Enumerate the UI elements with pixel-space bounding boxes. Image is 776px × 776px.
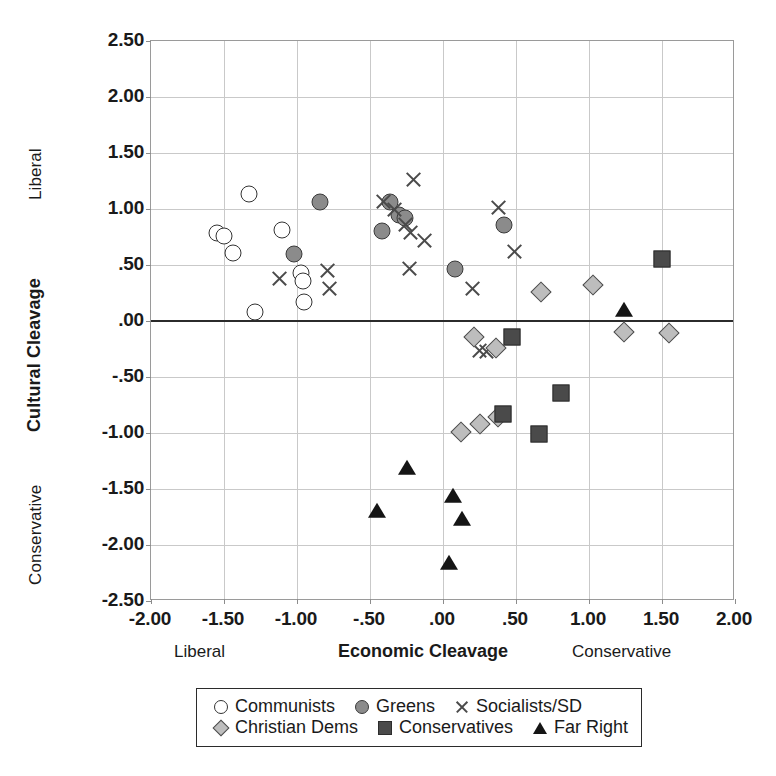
gridline-horizontal [151,489,733,490]
x-tick-label: 1.50 [621,608,701,630]
data-point-far-right [398,459,416,474]
data-point-conservatives [494,405,511,422]
x-tick-label: 2.00 [694,608,774,630]
x-tick-mark [516,599,517,604]
x-tick-mark [589,599,590,604]
y-tick-label: -1.50 [58,477,144,499]
y-tick-mark [146,321,151,322]
y-tick-mark [146,265,151,266]
legend-circle-open-icon [210,697,232,717]
legend-diamond-icon [210,718,232,738]
data-point-communists [224,244,241,261]
y-tick-label: .50 [58,253,144,275]
gridline-horizontal [151,433,733,434]
x-axis-label-right: Conservative [572,642,671,662]
legend-triangle-icon [529,718,551,738]
data-point-greens [312,194,329,211]
zero-baseline [151,320,733,322]
y-tick-label: 1.00 [58,197,144,219]
data-point-far-right [368,503,386,518]
y-tick-label: -2.00 [58,533,144,555]
y-tick-label: -1.00 [58,421,144,443]
data-point-far-right [440,555,458,570]
y-tick-mark [146,377,151,378]
legend-row: Christian DemsConservativesFar Right [210,717,628,738]
y-axis-title: Cultural Cleavage [24,278,45,432]
data-point-greens [446,261,463,278]
y-axis-label-bottom: Conservative [26,485,46,585]
legend-label: Far Right [554,717,628,738]
legend-label: Conservatives [399,717,513,738]
data-point-socialists-sd [321,280,338,297]
data-point-christian-dems [530,281,551,302]
gridline-horizontal [151,545,733,546]
y-tick-label: 1.50 [58,141,144,163]
x-tick-mark [370,599,371,604]
data-point-far-right [444,487,462,502]
legend-cross-icon [451,697,473,717]
y-axis-ticks: 2.502.001.501.00.50.00-.50-1.00-1.50-2.0… [48,0,144,776]
data-point-christian-dems [583,275,604,296]
data-point-socialists-sd [416,232,433,249]
legend-item-christian-dems[interactable]: Christian Dems [210,717,374,738]
legend-row: CommunistsGreensSocialists/SD [210,696,628,717]
legend-label: Christian Dems [235,717,358,738]
data-point-greens [496,216,513,233]
y-tick-mark [146,545,151,546]
data-point-socialists-sd [506,243,523,260]
legend-square-icon [374,718,396,738]
legend-item-far-right[interactable]: Far Right [529,717,628,738]
x-tick-mark [151,599,152,604]
x-tick-mark [443,599,444,604]
data-point-christian-dems [450,421,471,442]
legend-label: Greens [376,696,435,717]
x-axis-ticks: -2.00-1.50-1.00-.50.00.501.001.502.00 [0,608,776,636]
x-tick-label: -1.00 [256,608,336,630]
x-tick-label: -.50 [329,608,409,630]
y-tick-mark [146,489,151,490]
y-tick-label: -.50 [58,365,144,387]
gridline-horizontal [151,153,733,154]
data-point-conservatives [654,251,671,268]
data-point-communists [294,272,311,289]
data-point-far-right [615,302,633,317]
x-tick-mark [224,599,225,604]
data-point-communists [296,293,313,310]
y-axis-label-top: Liberal [26,148,46,200]
x-tick-mark [735,599,736,604]
x-tick-label: .50 [475,608,555,630]
legend-label: Communists [235,696,335,717]
legend-item-conservatives[interactable]: Conservatives [374,717,529,738]
data-point-communists [274,222,291,239]
legend-circle-filled-icon [351,697,373,717]
x-tick-label: 1.00 [548,608,628,630]
data-point-conservatives [503,328,520,345]
y-tick-label: .00 [58,309,144,331]
y-tick-mark [146,209,151,210]
data-point-socialists-sd [490,199,507,216]
legend-item-socialists-sd[interactable]: Socialists/SD [451,696,598,717]
data-point-communists [216,227,233,244]
y-tick-mark [146,97,151,98]
plot-area [150,40,734,600]
data-point-conservatives [531,426,548,443]
data-point-far-right [453,511,471,526]
data-point-socialists-sd [405,171,422,188]
gridline-horizontal [151,209,733,210]
scatter-plot-figure: Cultural Cleavage Liberal Conservative 2… [0,0,776,776]
data-point-greens [373,223,390,240]
y-tick-label: 2.00 [58,85,144,107]
data-point-socialists-sd [271,270,288,287]
gridline-horizontal [151,265,733,266]
x-tick-label: .00 [402,608,482,630]
x-axis-label-left: Liberal [174,642,225,662]
data-point-socialists-sd [464,280,481,297]
x-axis-title: Economic Cleavage [338,641,508,662]
legend-item-communists[interactable]: Communists [210,696,351,717]
legend-label: Socialists/SD [476,696,582,717]
data-point-socialists-sd [319,262,336,279]
data-point-conservatives [553,384,570,401]
y-tick-label: 2.50 [58,29,144,51]
legend-item-greens[interactable]: Greens [351,696,451,717]
data-point-socialists-sd [401,260,418,277]
